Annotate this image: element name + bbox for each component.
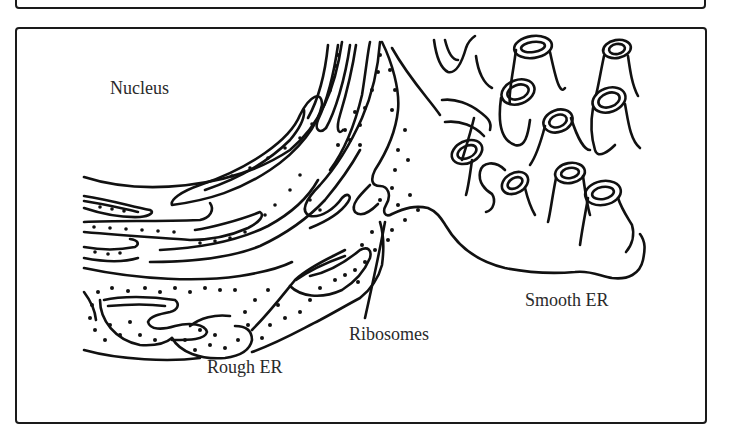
label-rough-er: Rough ER	[207, 357, 283, 378]
ribosomes-pointer	[365, 222, 385, 318]
er-diagram	[0, 0, 748, 443]
smooth-er-outline	[372, 36, 644, 278]
label-nucleus: Nucleus	[110, 78, 169, 99]
label-ribosomes: Ribosomes	[349, 324, 429, 345]
label-smooth-er: Smooth ER	[525, 290, 609, 311]
